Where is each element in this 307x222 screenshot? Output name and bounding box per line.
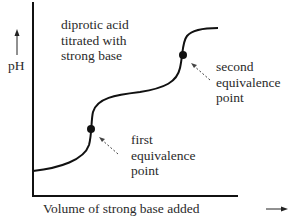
label-line: second xyxy=(216,59,280,75)
y-axis-arrow-icon xyxy=(15,29,20,55)
diagram-title: diprotic acid titrated with strong base xyxy=(61,17,129,64)
titration-diagram xyxy=(0,0,307,222)
title-line: strong base xyxy=(61,48,129,64)
label-line: point xyxy=(131,163,195,179)
label-line: first xyxy=(131,132,195,148)
label-line: equivalence xyxy=(131,148,195,164)
second-equivalence-label: second equivalence point xyxy=(216,59,280,106)
first-point-arrow-icon xyxy=(99,137,118,154)
second-point-arrow-icon xyxy=(191,63,210,80)
first-equivalence-point-marker xyxy=(87,125,95,133)
second-equivalence-point-marker xyxy=(179,51,187,59)
label-line: point xyxy=(216,90,280,106)
x-axis-label: Volume of strong base added xyxy=(43,201,199,217)
title-line: diprotic acid xyxy=(61,17,129,33)
x-axis-arrow-icon xyxy=(266,207,288,212)
first-equivalence-label: first equivalence point xyxy=(131,132,195,179)
y-axis-label: pH xyxy=(8,58,25,74)
title-line: titrated with xyxy=(61,33,129,49)
label-line: equivalence xyxy=(216,75,280,91)
